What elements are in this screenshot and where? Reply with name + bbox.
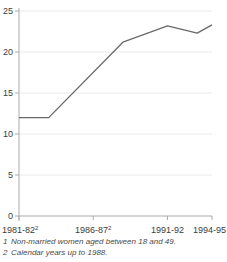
y-tick-label-5: 5 [8,170,13,180]
footnote-2-text: Calendar years up to 1988. [11,248,108,257]
footnote-2-marker: 2 [3,247,11,258]
x-tick-label-1994-95: 1994-95 [193,225,226,235]
footnotes: 1Non-married women aged between 18 and 4… [3,236,225,258]
x-tick-label-1986-87: 1986-872 [75,225,112,235]
footnote-1-marker: 1 [3,236,11,247]
data-line-percentage-line [19,25,212,118]
x-tick-label-1991-92: 1991-92 [151,225,184,235]
y-tick-label-15: 15 [3,88,13,98]
footnote-1-text: Non-married women aged between 18 and 49… [11,237,176,246]
y-tick-label-10: 10 [3,129,13,139]
y-tick-label-20: 20 [3,47,13,57]
x-tick-label-1981-82: 1981-822 [2,225,39,235]
footnote-1: 1Non-married women aged between 18 and 4… [3,236,225,247]
footnote-2: 2Calendar years up to 1988. [3,247,225,258]
line-chart-figure: 05101520251981-8221986-8721991-921994-95… [0,0,227,262]
line-chart: 05101520251981-8221986-8721991-921994-95 [0,0,227,236]
y-tick-label-25: 25 [3,6,13,16]
y-tick-label-0: 0 [8,211,13,221]
